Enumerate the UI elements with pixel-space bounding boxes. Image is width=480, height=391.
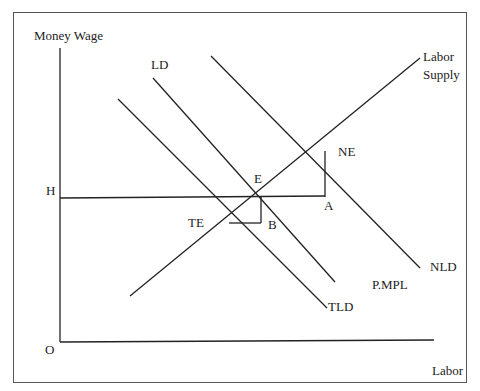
origin-label: O — [45, 343, 54, 358]
wage-h-line — [60, 196, 325, 198]
te-label: TE — [188, 216, 204, 231]
ld-curve — [153, 78, 335, 282]
h-label: H — [46, 184, 55, 199]
ld-label: LD — [151, 58, 168, 73]
a-label: A — [324, 199, 333, 214]
y-axis-label: Money Wage — [34, 29, 103, 44]
labor-supply-label-line2: Supply — [423, 68, 460, 83]
nld-curve — [211, 56, 420, 268]
tld-curve — [118, 99, 327, 308]
nld-label: NLD — [430, 260, 457, 275]
tld-label: TLD — [328, 300, 353, 315]
x-axis — [60, 340, 434, 342]
ne-label: NE — [338, 145, 355, 160]
pmpl-label: P.MPL — [372, 278, 408, 293]
x-axis-label: Labor — [432, 364, 463, 379]
b-label: B — [268, 218, 277, 233]
labor-market-diagram — [0, 0, 480, 391]
labor-supply-label-line1: Labor — [423, 50, 454, 65]
e-label: E — [254, 172, 262, 187]
labor-supply-curve — [130, 58, 420, 296]
